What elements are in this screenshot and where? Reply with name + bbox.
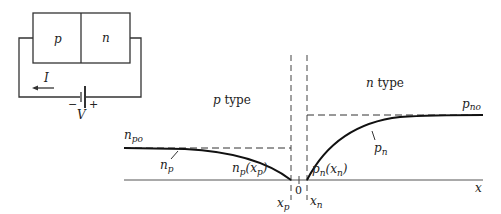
pno-label: pno [462,97,481,112]
arrow-head-icon [32,86,38,91]
current-label: I [43,71,49,85]
pn-xn-label: pn(xn) [312,162,348,178]
xp-label: xp [277,196,290,212]
origin-label: 0 [295,184,302,197]
voltage-label: V [77,108,87,122]
pn-label: pn [374,141,388,157]
np-leader [171,151,178,159]
npo-label: npo [124,128,143,144]
battery-minus: − [68,98,77,111]
concentration-plot [124,55,483,200]
battery-plus: + [89,98,98,111]
n-region-label: n [102,31,110,45]
pn-junction-diagram: p n I − + V p type n type npo pno np pn … [0,0,501,214]
pn-leader [372,131,375,140]
right-wire [86,38,141,97]
p-region-label: p [54,32,62,46]
np-label: np [160,158,174,174]
np-xp-label: np(xp) [232,161,268,177]
xn-label: xn [310,194,323,210]
circuit [19,13,141,108]
x-axis-label: x [475,181,482,195]
p-type-label: p type [213,93,251,107]
n-type-label: n type [366,76,404,90]
